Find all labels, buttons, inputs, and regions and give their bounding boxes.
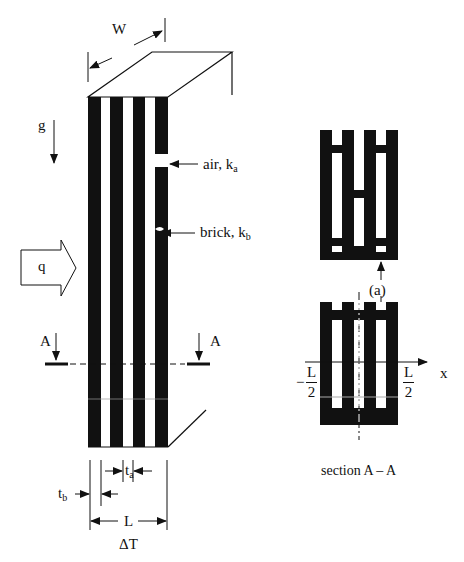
section-caption: section A – A xyxy=(321,464,396,478)
x-axis-label: x xyxy=(440,366,448,381)
dim-tb-label: tb xyxy=(58,486,67,503)
left-bound-sign: − xyxy=(296,375,304,390)
wall-column xyxy=(88,52,232,447)
callout-a-label: (a) xyxy=(369,283,386,298)
gravity-label: g xyxy=(38,118,46,133)
heat-flux-label: q xyxy=(38,259,46,274)
width-label: W xyxy=(112,22,126,37)
dim-ta-label: ta xyxy=(125,463,134,480)
left-bound-fraction: L 2 xyxy=(306,365,317,400)
air-label: air, ka xyxy=(203,157,238,174)
section-marker-right: A xyxy=(210,334,221,349)
section-detail-upper xyxy=(320,130,398,260)
dim-L-label: L xyxy=(124,514,133,529)
brick-label: brick, kb xyxy=(200,225,251,242)
section-cut-line xyxy=(45,333,210,412)
heat-flux-arrow-icon xyxy=(21,240,76,296)
right-bound-fraction: L 2 xyxy=(403,365,414,400)
section-marker-left: A xyxy=(40,334,51,349)
delta-T-label: ΔT xyxy=(119,537,138,552)
bottom-dimensions xyxy=(75,460,167,530)
diagram-canvas: W g q air, ka brick, kb A A ta tb L ΔT (… xyxy=(0,0,464,562)
